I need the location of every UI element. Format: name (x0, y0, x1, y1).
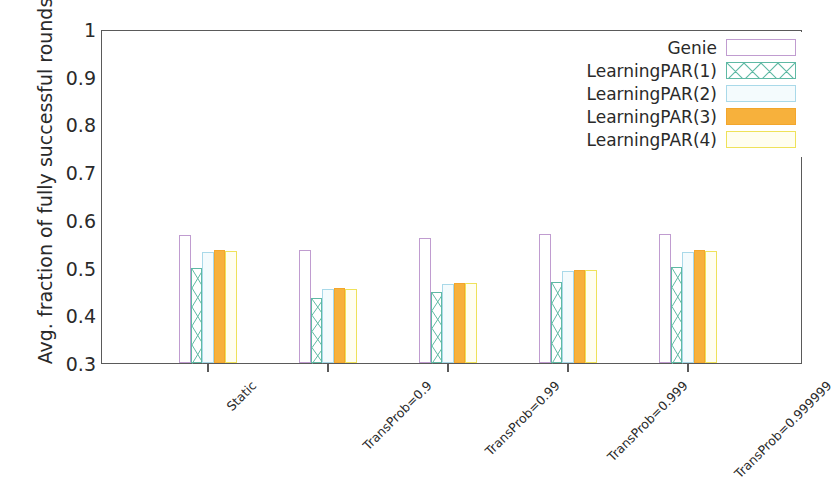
bar-learningpar2-3 (562, 271, 574, 363)
legend-swatch-learningpar1 (726, 62, 796, 79)
bar-learningpar3-1 (334, 288, 346, 363)
bar-learningpar3-0 (214, 250, 226, 363)
bar-learningpar2-2 (442, 284, 454, 363)
y-axis-tick-label: 0.5 (66, 258, 96, 280)
x-hatch-pattern-icon (727, 63, 796, 79)
bar-learningpar1-0 (191, 268, 203, 363)
bar-learningpar4-2 (465, 283, 477, 363)
x-axis-tick-mark (207, 364, 209, 372)
bar-learningpar1-3 (551, 282, 563, 363)
legend-swatch-genie (726, 39, 796, 56)
chart-legend: Genie LearningPAR(1) LearningPAR(2) Lear… (540, 32, 802, 157)
y-axis-title: Avg. fraction of fully successful rounds (34, 0, 56, 376)
legend-label: LearningPAR(1) (587, 61, 718, 81)
bar-learningpar2-1 (322, 289, 334, 363)
bar-genie-2 (419, 238, 431, 363)
bar-learningpar2-4 (682, 252, 694, 363)
legend-swatch-learningpar2 (726, 85, 796, 102)
legend-item[interactable]: LearningPAR(2) (544, 82, 796, 105)
bar-genie-0 (179, 235, 191, 363)
x-axis-tick-label: TransProb=0.999 (604, 378, 690, 464)
bar-learningpar4-3 (585, 270, 597, 363)
x-axis-tick-mark (447, 364, 449, 372)
x-axis-tick-label: TransProb=0.999999 (731, 378, 834, 481)
legend-label: LearningPAR(2) (587, 84, 718, 104)
bar-genie-3 (539, 234, 551, 363)
y-axis-tick-label: 0.9 (66, 67, 96, 89)
bar-learningpar4-1 (345, 289, 357, 363)
x-axis-tick-mark (327, 364, 329, 372)
y-axis-tick-label: 0.3 (66, 353, 96, 375)
bar-learningpar2-0 (202, 252, 214, 363)
legend-item[interactable]: Genie (544, 36, 796, 59)
bar-learningpar4-0 (225, 251, 237, 363)
legend-label: LearningPAR(4) (587, 130, 718, 150)
bar-learningpar3-4 (694, 250, 706, 363)
y-axis-tick-label: 0.8 (66, 114, 96, 136)
legend-label: LearningPAR(3) (587, 107, 718, 127)
bar-genie-1 (299, 250, 311, 363)
bar-learningpar3-3 (574, 270, 586, 363)
bar-learningpar1-4 (671, 267, 683, 363)
bar-learningpar4-4 (705, 251, 717, 363)
y-axis-tick-label: 0.4 (66, 305, 96, 327)
legend-item[interactable]: LearningPAR(4) (544, 128, 796, 151)
y-axis-tick-label: 0.6 (66, 210, 96, 232)
bar-learningpar3-2 (454, 283, 466, 363)
legend-item[interactable]: LearningPAR(1) (544, 59, 796, 82)
x-axis-tick-label: TransProb=0.9 (360, 378, 435, 453)
y-axis-tick-label: 0.7 (66, 162, 96, 184)
bar-genie-4 (659, 234, 671, 363)
legend-swatch-learningpar4 (726, 131, 796, 148)
legend-item[interactable]: LearningPAR(3) (544, 105, 796, 128)
bar-learningpar1-2 (431, 292, 443, 363)
x-axis-tick-mark (687, 364, 689, 372)
bar-learningpar1-1 (311, 298, 323, 363)
x-axis-tick-label: TransProb=0.99 (482, 378, 563, 459)
x-axis-tick-label: Static (223, 378, 259, 414)
legend-label: Genie (667, 38, 717, 58)
legend-swatch-learningpar3 (726, 108, 796, 125)
x-axis-tick-mark (567, 364, 569, 372)
y-axis-tick-label: 1 (84, 19, 96, 41)
